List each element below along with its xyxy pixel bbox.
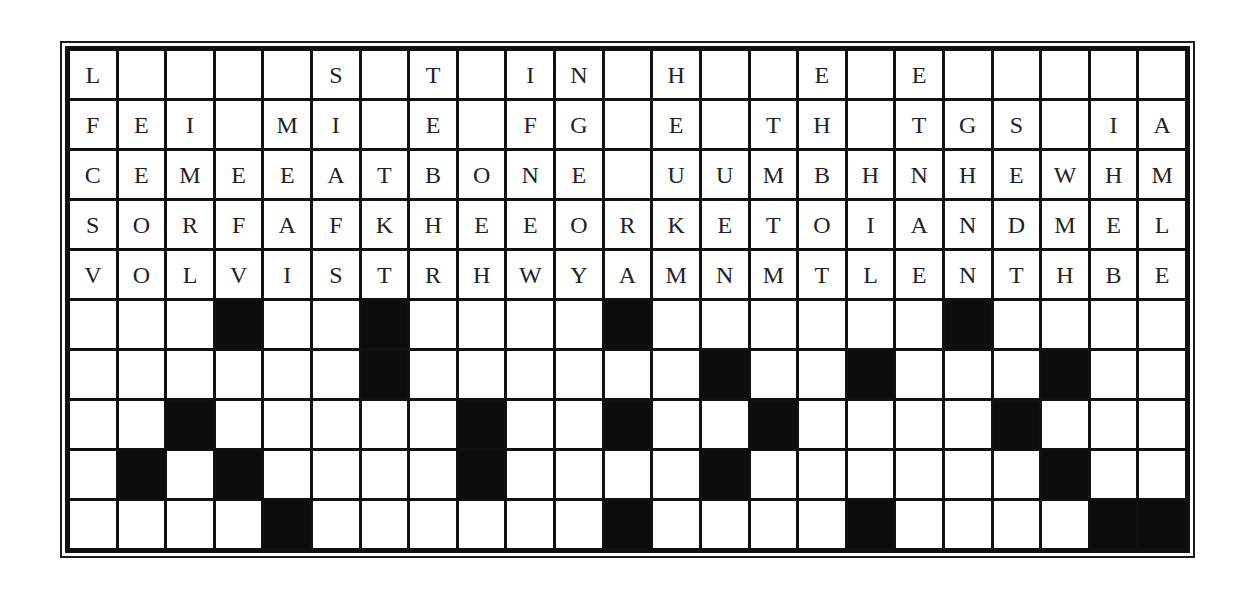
- answer-cell[interactable]: [507, 351, 553, 398]
- letter-cell[interactable]: [702, 51, 748, 98]
- letter-cell[interactable]: [1042, 101, 1088, 148]
- answer-cell[interactable]: [653, 301, 699, 348]
- letter-cell[interactable]: T: [751, 101, 797, 148]
- answer-cell[interactable]: [751, 451, 797, 498]
- letter-cell[interactable]: E: [216, 151, 262, 198]
- answer-cell[interactable]: [119, 351, 165, 398]
- answer-cell[interactable]: [313, 351, 359, 398]
- letter-cell[interactable]: U: [702, 151, 748, 198]
- letter-cell[interactable]: B: [410, 151, 456, 198]
- letter-cell[interactable]: L: [70, 51, 116, 98]
- letter-cell[interactable]: E: [1139, 251, 1185, 298]
- answer-cell[interactable]: [119, 501, 165, 548]
- letter-cell[interactable]: H: [1091, 151, 1137, 198]
- letter-cell[interactable]: F: [70, 101, 116, 148]
- letter-cell[interactable]: N: [896, 151, 942, 198]
- answer-cell[interactable]: [167, 301, 213, 348]
- answer-cell[interactable]: [119, 401, 165, 448]
- letter-cell[interactable]: N: [507, 151, 553, 198]
- letter-cell[interactable]: A: [264, 201, 310, 248]
- answer-cell[interactable]: [994, 451, 1040, 498]
- letter-cell[interactable]: S: [313, 251, 359, 298]
- answer-cell[interactable]: [945, 351, 991, 398]
- letter-cell[interactable]: [459, 101, 505, 148]
- answer-cell[interactable]: [70, 451, 116, 498]
- letter-cell[interactable]: A: [1139, 101, 1185, 148]
- letter-cell[interactable]: I: [264, 251, 310, 298]
- answer-cell[interactable]: [1091, 301, 1137, 348]
- answer-cell[interactable]: [556, 401, 602, 448]
- answer-cell[interactable]: [313, 451, 359, 498]
- letter-cell[interactable]: E: [556, 151, 602, 198]
- letter-cell[interactable]: C: [70, 151, 116, 198]
- answer-cell[interactable]: [507, 501, 553, 548]
- letter-cell[interactable]: T: [994, 251, 1040, 298]
- answer-cell[interactable]: [1139, 301, 1185, 348]
- answer-cell[interactable]: [362, 501, 408, 548]
- answer-cell[interactable]: [945, 401, 991, 448]
- letter-cell[interactable]: [848, 101, 894, 148]
- letter-cell[interactable]: K: [653, 201, 699, 248]
- letter-cell[interactable]: O: [459, 151, 505, 198]
- letter-cell[interactable]: M: [1042, 201, 1088, 248]
- letter-cell[interactable]: T: [799, 251, 845, 298]
- letter-cell[interactable]: H: [653, 51, 699, 98]
- letter-cell[interactable]: [119, 51, 165, 98]
- answer-cell[interactable]: [556, 501, 602, 548]
- answer-cell[interactable]: [410, 501, 456, 548]
- answer-cell[interactable]: [1139, 451, 1185, 498]
- letter-cell[interactable]: [605, 51, 651, 98]
- letter-cell[interactable]: E: [702, 201, 748, 248]
- answer-cell[interactable]: [1042, 501, 1088, 548]
- letter-cell[interactable]: H: [410, 201, 456, 248]
- letter-cell[interactable]: E: [896, 251, 942, 298]
- letter-cell[interactable]: K: [362, 201, 408, 248]
- letter-cell[interactable]: L: [848, 251, 894, 298]
- letter-cell[interactable]: E: [507, 201, 553, 248]
- answer-cell[interactable]: [167, 451, 213, 498]
- letter-cell[interactable]: N: [556, 51, 602, 98]
- answer-cell[interactable]: [1042, 401, 1088, 448]
- letter-cell[interactable]: [751, 51, 797, 98]
- letter-cell[interactable]: S: [994, 101, 1040, 148]
- letter-cell[interactable]: G: [556, 101, 602, 148]
- letter-cell[interactable]: E: [1091, 201, 1137, 248]
- letter-cell[interactable]: R: [167, 201, 213, 248]
- letter-cell[interactable]: W: [1042, 151, 1088, 198]
- letter-cell[interactable]: N: [945, 251, 991, 298]
- answer-cell[interactable]: [70, 501, 116, 548]
- answer-cell[interactable]: [410, 351, 456, 398]
- letter-cell[interactable]: R: [410, 251, 456, 298]
- answer-cell[interactable]: [653, 501, 699, 548]
- letter-cell[interactable]: E: [459, 201, 505, 248]
- letter-cell[interactable]: N: [945, 201, 991, 248]
- answer-cell[interactable]: [119, 301, 165, 348]
- letter-cell[interactable]: T: [362, 251, 408, 298]
- answer-cell[interactable]: [702, 401, 748, 448]
- letter-cell[interactable]: E: [119, 151, 165, 198]
- answer-cell[interactable]: [1091, 451, 1137, 498]
- answer-cell[interactable]: [556, 351, 602, 398]
- answer-cell[interactable]: [751, 501, 797, 548]
- answer-cell[interactable]: [1091, 351, 1137, 398]
- answer-cell[interactable]: [848, 301, 894, 348]
- letter-cell[interactable]: W: [507, 251, 553, 298]
- letter-cell[interactable]: M: [751, 151, 797, 198]
- answer-cell[interactable]: [896, 401, 942, 448]
- answer-cell[interactable]: [1139, 351, 1185, 398]
- answer-cell[interactable]: [799, 301, 845, 348]
- answer-cell[interactable]: [994, 501, 1040, 548]
- letter-cell[interactable]: T: [410, 51, 456, 98]
- letter-cell[interactable]: E: [896, 51, 942, 98]
- answer-cell[interactable]: [896, 451, 942, 498]
- letter-cell[interactable]: I: [507, 51, 553, 98]
- letter-cell[interactable]: O: [119, 251, 165, 298]
- letter-cell[interactable]: [362, 101, 408, 148]
- letter-cell[interactable]: I: [848, 201, 894, 248]
- answer-cell[interactable]: [994, 351, 1040, 398]
- letter-cell[interactable]: B: [799, 151, 845, 198]
- answer-cell[interactable]: [799, 451, 845, 498]
- answer-cell[interactable]: [264, 301, 310, 348]
- letter-cell[interactable]: M: [1139, 151, 1185, 198]
- answer-cell[interactable]: [459, 351, 505, 398]
